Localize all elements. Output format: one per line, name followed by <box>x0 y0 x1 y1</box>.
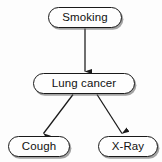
node-lung-cancer-label: Lung cancer <box>52 78 116 90</box>
edge-lung-cancer-to-xray <box>97 95 122 134</box>
node-smoking-label: Smoking <box>62 12 107 24</box>
node-xray-label: X-Ray <box>112 141 144 153</box>
node-xray[interactable]: X-Ray <box>98 136 158 157</box>
edge-lung-cancer-to-cough <box>44 95 74 134</box>
diagram-canvas: Smoking Lung cancer Cough X-Ray <box>0 0 162 162</box>
node-smoking[interactable]: Smoking <box>48 7 122 28</box>
node-lung-cancer[interactable]: Lung cancer <box>33 73 135 94</box>
node-cough[interactable]: Cough <box>8 136 70 157</box>
node-cough-label: Cough <box>22 141 56 153</box>
